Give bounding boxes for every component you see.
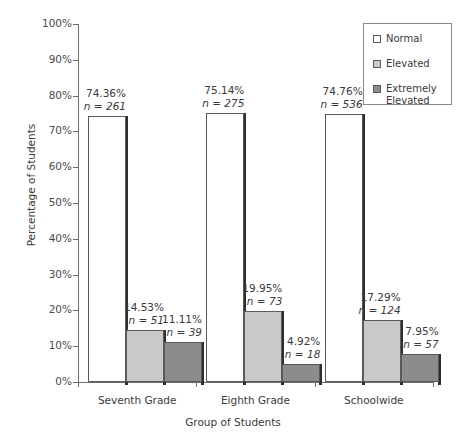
y-tick-label: 70%: [49, 124, 72, 136]
bar-eighth-grade-extremely-elevated[interactable]: [282, 364, 320, 382]
y-tick-label: 30%: [49, 268, 72, 280]
legend-item-normal[interactable]: Normal: [373, 33, 448, 45]
x-category-label: Seventh Grade: [78, 394, 196, 406]
bar-count-label: n = 275: [162, 97, 244, 110]
x-tick-mark: [315, 382, 316, 387]
bar-label: 74.36%n = 261: [44, 87, 126, 113]
bar-count-label: n = 73: [200, 295, 282, 308]
bar-seventh-grade-normal[interactable]: [88, 116, 126, 382]
x-category-label: Eighth Grade: [196, 394, 314, 406]
x-axis-title: Group of Students: [0, 416, 466, 428]
y-tick-label: 10%: [49, 339, 72, 351]
bar-seventh-grade-extremely-elevated[interactable]: [164, 342, 202, 382]
x-axis-line: [78, 382, 434, 383]
bar-percent-label: 4.92%: [238, 335, 320, 348]
y-tick-label: 40%: [49, 232, 72, 244]
y-axis-title: Percentage of Students: [25, 85, 37, 285]
bar-label: 19.95%n = 73: [200, 282, 282, 308]
bar-count-label: n = 57: [357, 338, 439, 351]
bar-percent-label: 14.53%: [82, 301, 164, 314]
bar-count-label: n = 39: [120, 326, 202, 339]
y-tick-label: 20%: [49, 303, 72, 315]
bar-percent-label: 74.76%: [281, 85, 363, 98]
y-tick-label: 50%: [49, 196, 72, 208]
x-category-label: Schoolwide: [315, 394, 433, 406]
bar-count-label: n = 261: [44, 100, 126, 113]
x-tick-mark: [433, 382, 434, 387]
y-tick-label: 100%: [42, 17, 72, 29]
legend-label-normal: Normal: [386, 33, 448, 45]
bar-percent-label: 11.11%: [120, 313, 202, 326]
legend: Normal Elevated Extremely Elevated: [363, 23, 452, 105]
bar-percent-label: 7.95%: [357, 325, 439, 338]
legend-label-elevated: Elevated: [386, 58, 448, 70]
bar-label: 4.92%n = 18: [238, 335, 320, 361]
y-tick-label: 90%: [49, 53, 72, 65]
bar-percent-label: 75.14%: [162, 84, 244, 97]
legend-swatch-extremely-elevated-icon: [373, 85, 381, 93]
legend-item-extremely-elevated[interactable]: Extremely Elevated: [373, 83, 448, 107]
bar-count-label: n = 18: [238, 348, 320, 361]
bar-label: 11.11%n = 39: [120, 313, 202, 339]
bar-schoolwide-extremely-elevated[interactable]: [401, 354, 439, 382]
x-tick-mark: [78, 382, 79, 387]
bar-percent-label: 74.36%: [44, 87, 126, 100]
legend-label-extremely-elevated: Extremely Elevated: [386, 83, 448, 107]
x-tick-mark: [196, 382, 197, 387]
bar-percent-label: 19.95%: [200, 282, 282, 295]
y-tick-label: 60%: [49, 160, 72, 172]
bar-count-label: n = 124: [319, 304, 401, 317]
bar-percent-label: 17.29%: [319, 291, 401, 304]
bar-label: 17.29%n = 124: [319, 291, 401, 317]
legend-item-elevated[interactable]: Elevated: [373, 58, 448, 70]
legend-swatch-normal-icon: [373, 35, 381, 43]
bar-label: 74.76%n = 536: [281, 85, 363, 111]
bar-count-label: n = 536: [281, 98, 363, 111]
bar-label: 75.14%n = 275: [162, 84, 244, 110]
bar-chart: Percentage of Students 100%90%80%70%60%5…: [0, 0, 466, 447]
legend-swatch-elevated-icon: [373, 60, 381, 68]
y-tick-label: 0%: [55, 375, 72, 387]
bar-label: 7.95%n = 57: [357, 325, 439, 351]
